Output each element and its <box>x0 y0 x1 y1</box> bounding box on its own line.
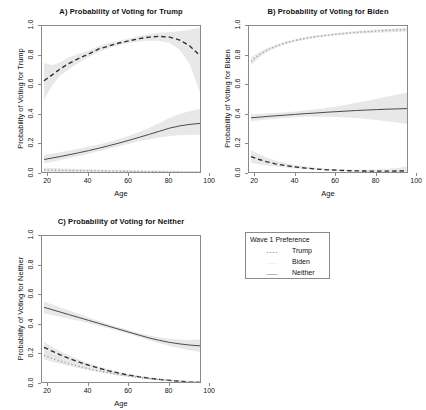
panel-c-y-axis-title: Probability of Voting for Neither <box>16 235 25 383</box>
panelB-ytick-label: 0.0 <box>234 166 241 180</box>
panelA-ytick-label: 0.6 <box>27 77 34 91</box>
legend-line-dashed-icon <box>256 252 288 253</box>
panel-a-y-axis-title: Probability of Voting for Trump <box>16 25 25 173</box>
panelC-ytick-label: 0.0 <box>27 376 34 390</box>
panel-b-biden: B) Probability of Voting for Biden Proba… <box>213 0 426 205</box>
panelB-ci-neither <box>251 93 407 124</box>
panelB-xtick-label: 80 <box>372 177 380 184</box>
panel-b-plot-area <box>248 25 408 173</box>
panelA-ytick-mark <box>38 173 41 174</box>
panelB-ytick-mark <box>245 114 248 115</box>
panelB-ytick-mark <box>245 25 248 26</box>
panel-c-x-axis-title: Age <box>41 399 201 408</box>
panelC-xtick-mark <box>47 383 48 386</box>
panelA-xtick-label: 60 <box>124 177 132 184</box>
panelB-ytick-label: 0.2 <box>234 136 241 150</box>
panelB-xtick-mark <box>295 173 296 176</box>
panelA-xtick-mark <box>47 173 48 176</box>
panelA-curves <box>42 26 201 173</box>
panelB-xtick-label: 20 <box>250 177 258 184</box>
panelB-xtick-mark <box>376 173 377 176</box>
legend-label-trump: Trump <box>292 247 312 254</box>
panelA-xtick-mark <box>128 173 129 176</box>
panelC-xtick-mark <box>209 383 210 386</box>
panelB-xtick-label: 100 <box>410 177 422 184</box>
panelA-ytick-mark <box>38 143 41 144</box>
panelC-curves <box>42 236 201 383</box>
panelB-ytick-mark <box>245 55 248 56</box>
panelA-xtick-mark <box>169 173 170 176</box>
panelA-xtick-label: 20 <box>43 177 51 184</box>
panelC-xtick-mark <box>88 383 89 386</box>
panel-b-x-axis-title: Age <box>248 189 408 198</box>
panelB-ytick-label: 0.6 <box>234 77 241 91</box>
legend: Wave 1 Preference Trump Biden Neither <box>245 232 330 279</box>
panelC-xtick-label: 80 <box>165 387 173 394</box>
panelA-xtick-mark <box>88 173 89 176</box>
panelC-ytick-mark <box>38 294 41 295</box>
panelA-ytick-label: 0.8 <box>27 47 34 61</box>
panel-a-plot-area <box>41 25 201 173</box>
panel-b-y-axis-title: Probability of Voting for Biden <box>223 25 232 173</box>
panelC-ytick-label: 0.2 <box>27 346 34 360</box>
panelC-ytick-mark <box>38 265 41 266</box>
panelB-xtick-label: 60 <box>331 177 339 184</box>
panelA-ytick-mark <box>38 55 41 56</box>
panelC-ytick-mark <box>38 383 41 384</box>
panelA-xtick-label: 80 <box>165 177 173 184</box>
panel-b-title: B) Probability of Voting for Biden <box>248 7 408 16</box>
figure-container: A) Probability of Voting for Trump Proba… <box>0 0 426 410</box>
legend-line-solid-icon <box>256 274 288 275</box>
panelC-xtick-label: 40 <box>84 387 92 394</box>
panelA-ytick-label: 0.0 <box>27 166 34 180</box>
panelC-xtick-mark <box>169 383 170 386</box>
legend-item-neither[interactable]: Neither <box>250 269 330 280</box>
panelC-xtick-label: 20 <box>43 387 51 394</box>
legend-label-neither: Neither <box>292 269 315 276</box>
panelA-ytick-mark <box>38 84 41 85</box>
panelA-ytick-mark <box>38 114 41 115</box>
panelB-ytick-label: 0.4 <box>234 106 241 120</box>
panelB-xtick-label: 40 <box>291 177 299 184</box>
panelC-xtick-label: 100 <box>203 387 215 394</box>
panelB-xtick-mark <box>416 173 417 176</box>
panelC-ci-neither <box>44 301 200 352</box>
panelB-ytick-mark <box>245 143 248 144</box>
panelB-ytick-label: 1.0 <box>234 18 241 32</box>
panelB-xtick-mark <box>335 173 336 176</box>
panelB-ci-biden <box>251 28 407 65</box>
panelB-ytick-label: 0.8 <box>234 47 241 61</box>
panel-c-plot-area <box>41 235 201 383</box>
panelC-ytick-label: 0.4 <box>27 316 34 330</box>
panelA-ytick-mark <box>38 25 41 26</box>
panelB-xtick-mark <box>254 173 255 176</box>
panelC-ytick-mark <box>38 353 41 354</box>
legend-item-trump[interactable]: Trump <box>250 247 330 258</box>
panelB-ytick-mark <box>245 173 248 174</box>
legend-label-biden: Biden <box>292 258 310 265</box>
panelA-ci-trump <box>44 27 200 100</box>
panel-c-title: C) Probability of Voting for Neither <box>41 217 201 226</box>
panelA-ci-biden <box>44 168 200 173</box>
panelC-ytick-label: 0.8 <box>27 257 34 271</box>
panelB-ytick-mark <box>245 84 248 85</box>
panelC-ytick-mark <box>38 324 41 325</box>
panelC-ytick-mark <box>38 235 41 236</box>
panelB-curves <box>249 26 408 173</box>
panelC-xtick-label: 60 <box>124 387 132 394</box>
panelA-ytick-label: 1.0 <box>27 18 34 32</box>
panel-a-title: A) Probability of Voting for Trump <box>41 7 201 16</box>
legend-line-dotted-icon <box>256 263 288 264</box>
panelC-ytick-label: 1.0 <box>27 228 34 242</box>
legend-title: Wave 1 Preference <box>250 236 310 243</box>
panelA-xtick-mark <box>209 173 210 176</box>
panelA-ytick-label: 0.4 <box>27 106 34 120</box>
panel-a-x-axis-title: Age <box>41 189 201 198</box>
panelA-xtick-label: 40 <box>84 177 92 184</box>
panel-c-neither: C) Probability of Voting for Neither Pro… <box>0 205 213 410</box>
panel-a-trump: A) Probability of Voting for Trump Proba… <box>0 0 213 205</box>
panelC-ytick-label: 0.6 <box>27 287 34 301</box>
legend-item-biden[interactable]: Biden <box>250 258 330 269</box>
panelC-xtick-mark <box>128 383 129 386</box>
panelA-ytick-label: 0.2 <box>27 136 34 150</box>
